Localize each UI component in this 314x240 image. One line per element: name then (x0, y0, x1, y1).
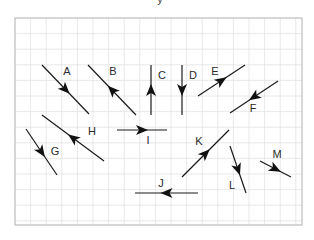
top-text-fragment: y (157, 0, 163, 5)
vector-label: I (146, 134, 149, 146)
vector-label: G (51, 145, 60, 157)
vector-a: A (42, 65, 89, 114)
vector-l: L (229, 146, 246, 193)
grid (15, 18, 302, 225)
vector-diagram: y ABCDEFGHIJKLM (0, 0, 314, 240)
vector-label: M (272, 148, 281, 160)
vectors-group: ABCDEFGHIJKLM (26, 65, 291, 198)
vector-c: C (146, 65, 166, 115)
vector-k: K (182, 130, 229, 177)
vector-b: B (88, 65, 136, 115)
vector-d: D (177, 65, 197, 115)
vector-j: J (135, 177, 198, 198)
arrowhead-icon (34, 144, 49, 160)
arrowhead-icon (65, 130, 81, 145)
vector-label: K (195, 135, 203, 147)
vector-label: F (250, 102, 257, 114)
vector-label: D (189, 69, 197, 81)
vector-label: E (211, 65, 218, 77)
vector-label: H (88, 125, 96, 137)
vector-label: J (158, 177, 164, 189)
vector-label: B (109, 65, 116, 77)
vector-label: L (229, 179, 235, 191)
vector-label: A (63, 65, 71, 77)
vector-f: F (230, 81, 278, 114)
vector-label: C (158, 69, 166, 81)
